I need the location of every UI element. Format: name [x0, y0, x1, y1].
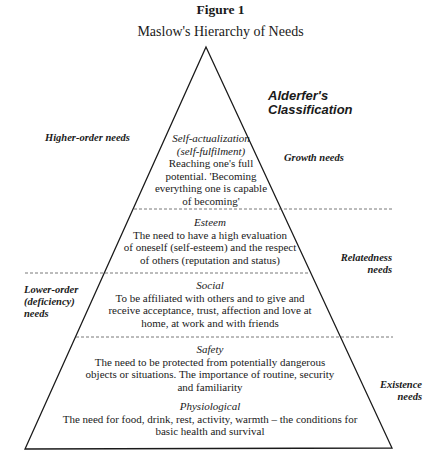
level-social: Social To be affiliated with others and …	[90, 279, 330, 329]
label-lower-order: Lower-order (deficiency) needs	[24, 284, 78, 320]
level-physiological: Physiological The need for food, drink, …	[30, 400, 390, 438]
level-name: Self-actualization	[146, 132, 276, 145]
level-desc-line: potential. 'Becoming	[146, 170, 276, 183]
alderfer-heading-line1: Alderfer's	[268, 89, 353, 103]
level-name: Social	[90, 279, 330, 292]
level-desc-line: of others (reputation and status)	[110, 254, 310, 267]
figure-number: Figure 1	[0, 2, 441, 18]
level-desc-line: and familiarity	[60, 381, 360, 394]
level-desc-line: Reaching one's full	[146, 157, 276, 170]
label-relatedness: Relatedness needs	[330, 252, 392, 276]
label-growth: Growth needs	[284, 152, 344, 164]
label-higher-order: Higher-order needs	[45, 132, 130, 144]
level-desc-line: objects or situations. The importance of…	[60, 368, 360, 381]
label-lower-order-line3: needs	[24, 308, 78, 320]
level-desc-line: The need to have a high evaluation	[110, 229, 310, 242]
level-name: Safety	[60, 343, 360, 356]
level-desc-line: home, at work and with friends	[90, 317, 330, 330]
level-safety: Safety The need to be protected from pot…	[60, 343, 360, 393]
level-desc-line: everything one is capable	[146, 182, 276, 195]
label-existence-line1: Existence	[370, 379, 422, 391]
alderfer-heading: Alderfer's Classification	[268, 89, 353, 117]
level-desc-line: of becoming'	[146, 195, 276, 208]
level-desc-line: basic health and survival	[30, 425, 390, 438]
level-esteem: Esteem The need to have a high evaluatio…	[110, 216, 310, 266]
level-desc-line: To be affiliated with others and to give…	[90, 292, 330, 305]
level-name: Esteem	[110, 216, 310, 229]
level-desc-line: of oneself (self-esteem) and the respect	[110, 241, 310, 254]
level-self-actualization: Self-actualization (self-fulfilment) Rea…	[146, 132, 276, 207]
alderfer-heading-line2: Classification	[268, 103, 353, 117]
level-desc-line: The need to be protected from potentiall…	[60, 356, 360, 369]
level-name: Physiological	[30, 400, 390, 413]
level-name-sub: (self-fulfilment)	[146, 145, 276, 158]
figure-title: Maslow's Hierarchy of Needs	[0, 24, 441, 40]
label-lower-order-line1: Lower-order	[24, 284, 78, 296]
level-desc-line: receive acceptance, trust, affection and…	[90, 304, 330, 317]
label-relatedness-line1: Relatedness	[330, 252, 392, 264]
label-lower-order-line2: (deficiency)	[24, 296, 78, 308]
label-relatedness-line2: needs	[330, 264, 392, 276]
level-desc-line: The need for food, drink, rest, activity…	[30, 413, 390, 426]
